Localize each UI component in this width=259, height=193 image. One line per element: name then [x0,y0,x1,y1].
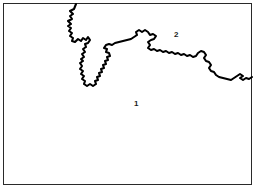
figure-root: 1 2 [0,0,259,193]
frame-box [3,3,252,185]
region-label-2: 2 [174,31,178,39]
region-label-1: 1 [134,100,138,108]
